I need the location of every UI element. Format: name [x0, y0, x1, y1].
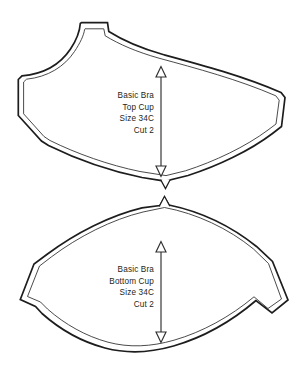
bottom-cup-label-line-4: Cut 2 [46, 299, 154, 311]
bottom-cup-notch [159, 196, 170, 206]
top-cup-label-line-1: Basic Bra [58, 90, 154, 102]
bottom-cup-label-line-1: Basic Bra [46, 264, 154, 276]
top-cup-notch [161, 179, 171, 188]
top-cup-label-line-3: Size 34C [58, 113, 154, 125]
top-cup-label-block: Basic Bra Top Cup Size 34C Cut 2 [58, 90, 154, 136]
bottom-cup-label-line-2: Bottom Cup [46, 276, 154, 288]
top-cup-label-line-4: Cut 2 [58, 125, 154, 137]
bottom-cup-label-line-3: Size 34C [46, 287, 154, 299]
pattern-drawing [0, 0, 301, 376]
top-cup-label-line-2: Top Cup [58, 102, 154, 114]
pattern-sheet: Basic Bra Top Cup Size 34C Cut 2 Basic B… [0, 0, 301, 376]
bottom-cup-label-block: Basic Bra Bottom Cup Size 34C Cut 2 [46, 264, 154, 310]
